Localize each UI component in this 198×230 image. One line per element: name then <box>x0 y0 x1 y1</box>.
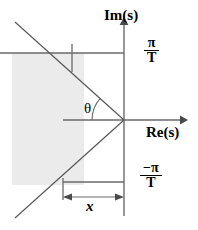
diagram-canvas <box>0 0 198 230</box>
theta-label: θ <box>84 101 91 116</box>
neg-pi-over-t-label: −π T <box>140 161 162 191</box>
theta-arc <box>92 98 101 120</box>
right-arrow-icon <box>180 116 188 125</box>
x-dimension-label: x <box>86 199 94 214</box>
neg-pi-over-t-numerator: −π <box>140 161 162 175</box>
imaginary-axis-label: Im(s) <box>104 8 138 23</box>
pi-over-t-label: π T <box>144 36 159 66</box>
dimension-left-arrow-icon <box>63 193 72 200</box>
s-plane-diagram: Im(s) Re(s) π T −π T θ x <box>0 0 198 230</box>
real-axis-label: Re(s) <box>146 125 179 140</box>
pi-over-t-numerator: π <box>144 36 159 50</box>
pi-over-t-denominator: T <box>144 50 159 65</box>
neg-pi-over-t-denominator: T <box>140 175 162 190</box>
dimension-right-arrow-icon <box>115 193 124 200</box>
